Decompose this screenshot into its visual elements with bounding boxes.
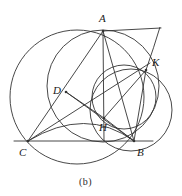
point-A <box>102 30 105 33</box>
figure-caption: (b) <box>79 177 92 187</box>
segment-HB <box>104 118 134 141</box>
segment-BK <box>134 70 146 141</box>
segment-HK <box>104 70 146 118</box>
point-label-D: D <box>53 85 61 96</box>
segment-CD-H-K <box>28 63 150 141</box>
point-label-B: B <box>137 147 144 158</box>
circle-through-H-K-B <box>92 65 156 129</box>
arc-C-to-B-through-H <box>28 124 134 142</box>
point-K <box>145 69 148 72</box>
circumcircle-ABC <box>10 30 144 164</box>
point-label-A: A <box>99 13 106 24</box>
point-label-H: H <box>99 122 107 133</box>
point-H <box>103 117 106 120</box>
geometry-figure-panel: A B C D H K (b) <box>0 0 182 196</box>
point-label-K: K <box>152 57 159 68</box>
point-D <box>65 91 68 94</box>
segment-AK <box>103 28 161 31</box>
point-B <box>133 140 136 143</box>
segment-AC <box>28 31 103 141</box>
point-label-C: C <box>19 147 26 158</box>
geometry-drawing <box>0 0 182 196</box>
circles-group <box>10 30 172 164</box>
point-C <box>27 140 30 143</box>
